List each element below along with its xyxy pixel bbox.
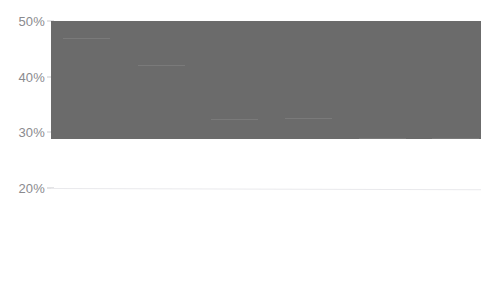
bar-recent-crisis[interactable] <box>211 119 258 139</box>
bar-series <box>51 21 481 139</box>
bar-problems-at-work[interactable] <box>359 138 406 139</box>
bar-mental-illness[interactable] <box>63 38 110 139</box>
gridline-20 <box>51 188 481 190</box>
y-axis-tick-label-50: 50% <box>18 14 45 29</box>
y-axis: 50% 40% 30% 20% 10% <box>0 21 45 194</box>
y-axis-tick-label-40: 40% <box>18 69 45 84</box>
bar-physical-health[interactable] <box>285 118 332 140</box>
y-axis-tick-label-20: 20% <box>18 180 45 194</box>
bar-chart: 50% 40% 30% 20% 10% Mental i <box>0 0 487 194</box>
bar-financial-problems[interactable] <box>432 138 479 139</box>
chart-title-sliver <box>0 0 487 12</box>
plot-area <box>51 21 481 194</box>
bar-intimate-partner[interactable] <box>138 65 185 139</box>
y-axis-tick-label-30: 30% <box>18 125 45 140</box>
